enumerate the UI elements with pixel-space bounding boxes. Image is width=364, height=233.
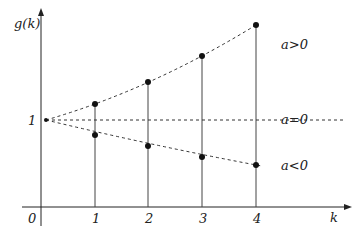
- y-axis-label: g(k): [14, 16, 40, 31]
- curve-a-neg: [46, 120, 262, 166]
- x-axis-label: k: [330, 210, 338, 225]
- curve-a-pos: [46, 25, 256, 120]
- x-tick-1: 1: [92, 211, 100, 226]
- points: [44, 22, 259, 168]
- y-tick-1: 1: [28, 113, 36, 128]
- origin-label: 0: [28, 211, 36, 226]
- chart: g(k) k 0 1 1 2 3 4 a>0 a=0 a<0: [0, 0, 364, 233]
- x-tick-3: 3: [199, 211, 207, 226]
- chart-svg: g(k) k 0 1 1 2 3 4 a>0 a=0 a<0: [0, 0, 364, 233]
- stems: [95, 25, 256, 207]
- legend-a-neg: a<0: [281, 158, 308, 173]
- legend-a-zero: a=0: [281, 112, 308, 127]
- legend-a-pos: a>0: [281, 37, 308, 52]
- x-tick-2: 2: [144, 211, 153, 226]
- x-tick-4: 4: [252, 211, 261, 226]
